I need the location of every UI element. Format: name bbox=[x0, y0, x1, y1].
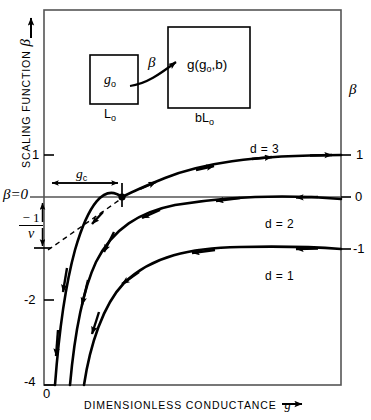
beta-zero-text: β=0 bbox=[3, 186, 28, 202]
inverse-nu-denominator: ν bbox=[19, 227, 43, 241]
curve-label-d1: d = 1 bbox=[265, 270, 294, 282]
g-zero-subscript: o bbox=[111, 79, 116, 89]
right-tick-label-minus1: -1 bbox=[353, 242, 365, 255]
y-axis-title-beta-symbol: β bbox=[17, 38, 33, 46]
scaling-theory-figure: SCALING FUNCTION β DIMENSIONLESS CONDUCT… bbox=[0, 0, 371, 420]
beta-zero-label: β=0 bbox=[3, 187, 28, 202]
small-box-L-symbol: L bbox=[104, 107, 111, 121]
inset-large-box-content: g(go,b) bbox=[187, 58, 227, 74]
left-axis-ticks bbox=[44, 155, 54, 385]
small-box-subscript: o bbox=[111, 113, 116, 123]
right-axis-ticks bbox=[341, 155, 351, 249]
g-function-tail: ,b) bbox=[212, 57, 228, 72]
left-tick-label-1: 1 bbox=[32, 148, 39, 161]
inverse-nu-label: − 1 ν bbox=[19, 212, 43, 241]
curve-d3 bbox=[55, 155, 341, 385]
origin-label: 0 bbox=[43, 387, 50, 400]
inset-large-box-label: bLo bbox=[195, 112, 214, 127]
curve-label-d3: d = 3 bbox=[250, 143, 279, 155]
gc-label-subscript: c bbox=[83, 173, 88, 183]
x-axis-title-g-symbol: g bbox=[281, 398, 292, 412]
g-function-head: g(g bbox=[187, 57, 207, 72]
curve-label-d2: d = 2 bbox=[265, 218, 294, 230]
curve-d1 bbox=[84, 247, 341, 385]
curve-d2 bbox=[70, 197, 341, 385]
right-axis-beta-symbol: β bbox=[349, 82, 356, 97]
left-tick-label-minus2: -2 bbox=[24, 293, 36, 306]
y-axis-title: SCALING FUNCTION β bbox=[18, 38, 33, 168]
inset-small-box-label: Lo bbox=[104, 108, 116, 123]
inset-arrow-beta-symbol: β bbox=[148, 55, 155, 70]
left-tick-label-minus4: -4 bbox=[24, 375, 36, 388]
critical-point-marker bbox=[118, 193, 125, 200]
gc-label: gc bbox=[76, 167, 87, 183]
right-tick-label-0: 0 bbox=[355, 190, 362, 203]
right-tick-label-1: 1 bbox=[356, 148, 363, 161]
figure-canvas bbox=[0, 0, 371, 420]
g-zero-symbol: g bbox=[104, 72, 111, 87]
x-axis-title-text: DIMENSIONLESS CONDUCTANCE bbox=[84, 399, 277, 411]
x-axis-title: DIMENSIONLESS CONDUCTANCE g bbox=[84, 399, 292, 412]
gc-label-g: g bbox=[76, 166, 83, 181]
large-box-bL-symbol: bL bbox=[195, 111, 209, 125]
inverse-nu-numerator: − 1 bbox=[19, 212, 43, 224]
tangent-dashed-line bbox=[48, 194, 128, 250]
inset-small-box-content: go bbox=[104, 73, 116, 89]
y-axis-title-text: SCALING FUNCTION bbox=[20, 50, 32, 168]
gc-measure-arrow bbox=[52, 183, 122, 207]
large-box-subscript: o bbox=[209, 117, 214, 127]
